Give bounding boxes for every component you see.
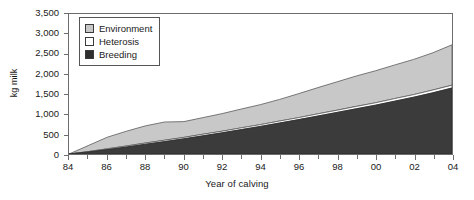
x-tick-mark xyxy=(376,155,377,160)
x-tick-mark xyxy=(164,155,165,159)
x-tick-mark xyxy=(338,155,339,160)
x-tick-mark xyxy=(318,155,319,159)
x-tick-mark xyxy=(87,155,88,159)
y-tick-label: 3,500 xyxy=(13,8,59,18)
x-tick-mark xyxy=(184,155,185,160)
legend-label: Breeding xyxy=(99,49,137,60)
y-tick-label: 3,000 xyxy=(13,28,59,38)
legend-item-breeding: Breeding xyxy=(85,48,152,61)
x-tick-mark xyxy=(222,155,223,160)
x-tick-mark xyxy=(107,155,108,160)
x-tick-mark xyxy=(299,155,300,160)
x-tick-mark xyxy=(261,155,262,160)
x-tick-mark xyxy=(203,155,204,159)
x-tick-mark xyxy=(395,155,396,159)
y-tick-label: 1,000 xyxy=(13,109,59,119)
y-tick-label: 2,500 xyxy=(13,48,59,58)
y-axis-title: kg milk xyxy=(9,53,19,113)
y-tick-label: 500 xyxy=(13,130,59,140)
x-tick-mark xyxy=(241,155,242,159)
legend-swatch-icon xyxy=(85,24,94,33)
x-tick-label: 98 xyxy=(323,161,353,172)
x-tick-mark xyxy=(434,155,435,159)
x-tick-label: 90 xyxy=(169,161,199,172)
x-axis: 8486889092949698000204 xyxy=(0,155,474,179)
legend-swatch-icon xyxy=(85,37,94,46)
x-tick-mark xyxy=(415,155,416,160)
x-tick-mark xyxy=(280,155,281,159)
x-tick-label: 84 xyxy=(53,161,83,172)
x-tick-label: 92 xyxy=(207,161,237,172)
chart-figure: 3,500 3,000 2,500 2,000 1,500 1,000 500 … xyxy=(0,0,474,200)
x-tick-label: 04 xyxy=(438,161,468,172)
legend-swatch-icon xyxy=(85,50,94,59)
chart-legend: Environment Heterosis Breeding xyxy=(79,17,160,66)
x-tick-label: 94 xyxy=(246,161,276,172)
x-tick-mark xyxy=(145,155,146,160)
x-tick-mark xyxy=(126,155,127,159)
y-tick-label: 1,500 xyxy=(13,89,59,99)
legend-label: Environment xyxy=(99,23,152,34)
x-tick-label: 02 xyxy=(400,161,430,172)
x-tick-label: 86 xyxy=(92,161,122,172)
x-tick-mark xyxy=(357,155,358,159)
x-axis-title: Year of calving xyxy=(0,178,474,189)
x-tick-mark xyxy=(68,155,69,160)
legend-item-heterosis: Heterosis xyxy=(85,35,152,48)
x-tick-mark xyxy=(453,155,454,160)
legend-item-environment: Environment xyxy=(85,22,152,35)
x-tick-label: 00 xyxy=(361,161,391,172)
x-tick-label: 88 xyxy=(130,161,160,172)
x-tick-label: 96 xyxy=(284,161,314,172)
legend-label: Heterosis xyxy=(99,36,139,47)
y-tick-label: 2,000 xyxy=(13,69,59,79)
